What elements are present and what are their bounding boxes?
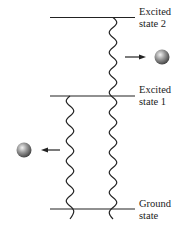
energy-level-diagram <box>0 0 181 227</box>
label-excited-state-1: Excited state 1 <box>139 84 171 108</box>
photon-sphere-left <box>17 143 32 158</box>
arrow-right-head <box>139 55 146 60</box>
photon-wave-left <box>66 96 74 219</box>
photon-wave-right <box>109 18 117 220</box>
label-ground-state: Ground state <box>139 198 171 222</box>
photon-sphere-right <box>155 50 170 65</box>
arrow-left-head <box>41 148 48 153</box>
label-excited-state-2: Excited state 2 <box>139 6 171 30</box>
